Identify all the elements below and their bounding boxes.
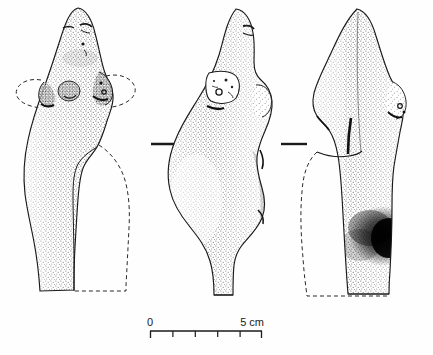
scale-bar: 0 5 cm <box>147 316 264 338</box>
profile-body-stipple <box>160 0 285 305</box>
mouth-incision <box>81 42 84 45</box>
figurine-three-view-illustration: 0 5 cm <box>0 0 433 355</box>
scale-bar-end-label: 5 cm <box>240 316 264 328</box>
profile-contour-mark <box>260 150 263 169</box>
breasts-front <box>58 81 80 101</box>
front-body-stipple <box>15 0 125 300</box>
figurine-view-front <box>15 0 135 300</box>
scale-bar-start-label: 0 <box>147 316 153 328</box>
figurine-view-profile <box>160 0 285 305</box>
applied-ornament-panel <box>206 71 240 103</box>
figurine-view-back <box>300 0 430 305</box>
illustration-plate: 0 5 cm <box>0 0 433 355</box>
